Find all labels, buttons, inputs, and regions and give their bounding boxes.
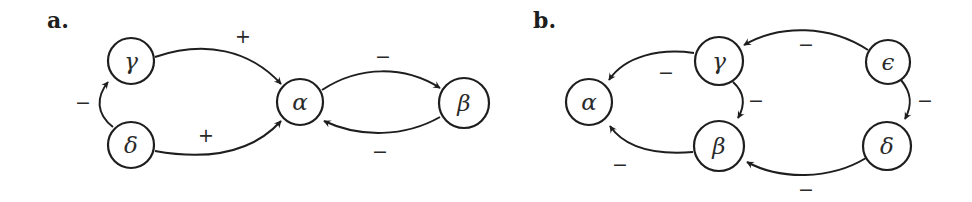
node-epsilon-b: ϵ: [866, 40, 910, 84]
edge-sign-beta-alpha-b: −: [612, 153, 628, 175]
edge-epsilon-to-delta-b: [901, 80, 910, 119]
edge-alpha-to-beta: [322, 71, 440, 90]
edge-delta-to-beta-b: [747, 158, 866, 175]
node-gamma-b: γ: [695, 37, 743, 85]
node-symbol: γ: [124, 48, 138, 74]
node-symbol: δ: [124, 132, 138, 158]
edge-delta-to-gamma: [100, 82, 113, 127]
edge-sign-gamma-alpha-b: −: [658, 61, 674, 83]
edge-beta-to-alpha-b: [610, 126, 693, 153]
edge-sign-gamma-beta-b: −: [748, 89, 764, 111]
node-symbol: ϵ: [882, 49, 895, 75]
edge-beta-to-alpha: [324, 117, 440, 133]
edge-gamma-to-alpha-b: [609, 52, 694, 80]
figure: a. + + − − − γ δ: [0, 0, 972, 202]
node-symbol: γ: [712, 48, 726, 74]
edge-sign-delta-gamma: −: [75, 91, 91, 113]
edge-sign-epsilon-gamma-b: −: [798, 33, 814, 55]
panel-label-b: b.: [533, 7, 556, 33]
node-delta-b: δ: [863, 122, 911, 170]
node-symbol: β: [456, 90, 470, 116]
node-alpha-b: α: [566, 79, 612, 125]
edge-sign-alpha-beta: −: [375, 45, 391, 67]
node-symbol: α: [292, 89, 308, 115]
edge-sign-delta-alpha: +: [198, 124, 214, 146]
edge-sign-gamma-alpha: +: [235, 25, 251, 47]
panel-label-a: a.: [47, 7, 69, 33]
edge-delta-to-alpha: [155, 121, 281, 155]
node-gamma-a: γ: [108, 38, 154, 84]
edge-gamma-to-alpha: [155, 49, 281, 84]
node-symbol: δ: [880, 133, 894, 159]
node-symbol: β: [711, 133, 725, 159]
panel-a: a. + + − − − γ δ: [47, 7, 489, 168]
edge-sign-epsilon-delta-b: −: [917, 89, 933, 111]
edge-sign-beta-alpha: −: [372, 140, 388, 162]
panel-b: b. − − − − − − α: [533, 7, 933, 200]
node-symbol: α: [581, 89, 597, 115]
node-delta-a: δ: [108, 122, 154, 168]
node-beta-b: β: [694, 121, 744, 171]
node-beta-a: β: [439, 78, 489, 128]
node-alpha-a: α: [277, 79, 323, 125]
edge-gamma-to-beta-b: [733, 82, 743, 118]
edge-sign-delta-beta-b: −: [798, 178, 814, 200]
